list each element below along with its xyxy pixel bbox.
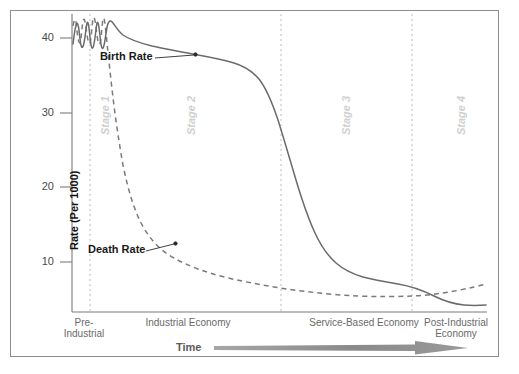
birth-rate-leader-line: [155, 55, 194, 58]
y-axis-title: Rate (Per 1000): [68, 171, 80, 251]
death-rate-label: Death Rate: [88, 243, 145, 255]
economy-label-line1: Pre-: [48, 317, 120, 328]
y-axis-tick-30: 30: [30, 106, 54, 118]
y-axis-tick-40: 40: [30, 31, 54, 43]
demographic-transition-figure: 40 30 20 10 Rate (Per 1000) Stage 1 Stag…: [0, 0, 519, 374]
birth-rate-curve: [73, 21, 486, 305]
callout-leaders: [146, 53, 197, 251]
time-axis-label: Time: [176, 341, 201, 353]
economy-label-line2: Economy: [410, 328, 502, 339]
time-arrow-icon: [214, 341, 468, 355]
y-axis-tick-10: 10: [30, 255, 54, 267]
death-rate-leader-line: [146, 244, 174, 251]
stage-label-1: Stage 1: [99, 96, 111, 135]
economy-label-line1: Post-Industrial: [410, 317, 502, 328]
economy-label-line1: Industrial Economy: [118, 317, 258, 328]
economy-label-post-industrial: Post-Industrial Economy: [410, 317, 502, 339]
economy-label-industrial: Industrial Economy: [118, 317, 258, 328]
economy-label-line2: Industrial: [48, 328, 120, 339]
stage-label-3: Stage 3: [340, 96, 352, 135]
birth-rate-leader-dot: [194, 53, 197, 56]
figure-caption: [12, 364, 512, 374]
stage-label-4: Stage 4: [455, 96, 467, 135]
stage-label-2: Stage 2: [185, 96, 197, 135]
economy-label-pre-industrial: Pre- Industrial: [48, 317, 120, 339]
birth-rate-label: Birth Rate: [100, 50, 153, 62]
death-rate-leader-dot: [174, 242, 177, 245]
y-axis-tick-20: 20: [30, 180, 54, 192]
